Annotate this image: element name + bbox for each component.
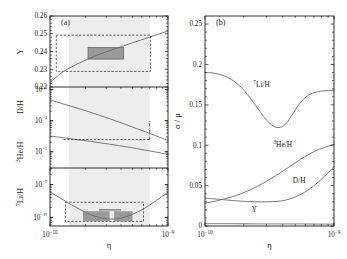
curve-label-Li7: 7Li/H bbox=[253, 79, 270, 89]
y-tick-label-Y: 0.26 bbox=[34, 12, 47, 20]
y-tick-label-DH: 10⁻⁴ bbox=[35, 115, 47, 125]
axis-label-eta-b: η bbox=[267, 240, 271, 250]
curve-b-Y bbox=[205, 224, 334, 225]
li7-filled-right-block bbox=[114, 211, 132, 221]
y-tick-label-DH: 10⁻⁵ bbox=[35, 146, 47, 156]
x-tick-label-b-left: 10−10 bbox=[197, 229, 213, 239]
curve-b-HeH bbox=[205, 144, 334, 203]
figure-root: 0.220.230.240.250.26Y(a)10⁻³10⁻⁴10⁻⁵D/H3… bbox=[0, 0, 347, 259]
y-filled-region-box bbox=[88, 48, 124, 60]
x-tick-label-b-right: 10−9 bbox=[328, 229, 341, 239]
axis-label-He3-over-H: 3He/H bbox=[15, 142, 25, 163]
y-tick-label-b: 0.15 bbox=[189, 101, 202, 109]
figure-canvas: 0.220.230.240.250.26Y(a)10⁻³10⁻⁴10⁻⁵D/H3… bbox=[0, 0, 347, 259]
y-tick-label-b: 0.2 bbox=[193, 61, 202, 69]
y-tick-label-b: 0.05 bbox=[189, 182, 202, 190]
y-tick-label-Y: 0.23 bbox=[34, 66, 47, 74]
y-tick-label-b: 0.1 bbox=[193, 142, 202, 150]
curve-b-DH bbox=[205, 167, 334, 202]
y-tick-label-b: 0 bbox=[198, 222, 202, 230]
axis-label-D-over-H: D/H bbox=[16, 100, 25, 114]
y-tick-label-Li7: 10⁻¹⁰ bbox=[33, 212, 47, 222]
axis-label-Li7-over-H: 7Li/H bbox=[15, 188, 25, 207]
panel-b-tag: (b) bbox=[216, 18, 226, 27]
axis-label-sigma-mu: σ / μ bbox=[172, 113, 182, 129]
y-tick-label-Y: 0.25 bbox=[34, 30, 47, 38]
y-tick-label-Li7: 10⁻⁹ bbox=[35, 179, 47, 189]
curve-label-DH: D/H bbox=[293, 176, 306, 185]
axis-label-Y: Y bbox=[16, 48, 25, 54]
x-tick-label-left: 10−10 bbox=[42, 229, 58, 239]
panel-b-frame bbox=[205, 16, 334, 226]
panel-a-tag: (a) bbox=[61, 18, 70, 27]
y-tick-label-b: 0.25 bbox=[189, 20, 202, 28]
curve-label-Y: Y bbox=[251, 205, 257, 214]
curve-label-He3: 3He/H bbox=[273, 139, 292, 149]
axis-label-eta-a: η bbox=[107, 240, 111, 250]
x-tick-label-right: 10−9 bbox=[162, 229, 175, 239]
y-tick-label-Y: 0.24 bbox=[34, 48, 47, 56]
y-tick-label-DH: 10⁻³ bbox=[35, 84, 47, 94]
